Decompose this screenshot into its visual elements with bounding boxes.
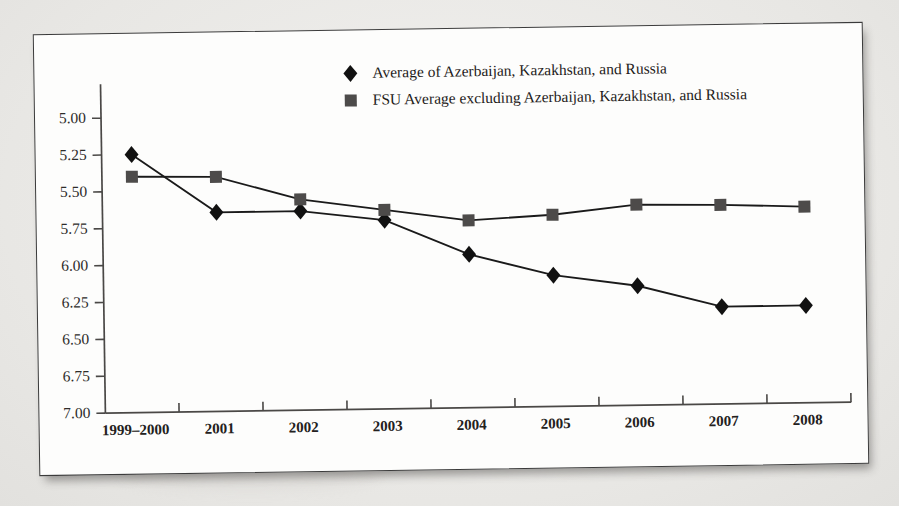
data-point-diamond-marker — [630, 277, 644, 294]
data-point-square-marker — [630, 199, 642, 211]
data-point-square-marker — [210, 171, 222, 183]
y-axis: 5.005.255.505.756.006.256.506.757.00 — [58, 84, 105, 421]
series-group — [124, 136, 813, 324]
data-point-diamond-marker — [124, 146, 138, 163]
x-axis-tick-label: 2004 — [456, 416, 487, 432]
data-point-square-marker — [294, 193, 306, 205]
plot-area: 5.005.255.505.756.006.256.506.757.00 199… — [34, 23, 868, 475]
data-point-diamond-marker — [343, 65, 357, 82]
y-axis-line — [101, 84, 106, 413]
data-point-square-marker — [345, 94, 357, 106]
legend-item: FSU Average excluding Azerbaijan, Kazakh… — [345, 85, 748, 108]
x-axis-tick-label: 2001 — [205, 420, 235, 436]
x-axis-tick-label: 2005 — [540, 415, 570, 431]
data-point-square-marker — [798, 200, 810, 212]
x-axis-tick-label: 2006 — [624, 414, 655, 430]
legend-item: Average of Azerbaijan, Kazakhstan, and R… — [343, 59, 667, 82]
x-axis-tick-label: 2008 — [792, 412, 822, 428]
x-axis-tick-label: 1999–2000 — [102, 421, 170, 438]
line-chart: 5.005.255.505.756.006.256.506.757.00 199… — [34, 23, 868, 475]
y-axis-tick-label: 6.25 — [61, 293, 89, 310]
y-axis-tick-label: 5.25 — [59, 146, 87, 163]
x-axis: 1999–20002001200220032004200520062007200… — [102, 393, 852, 438]
data-point-diamond-marker — [209, 204, 223, 221]
figure-inner: 5.005.255.505.756.006.256.506.757.00 199… — [34, 23, 868, 475]
y-axis-tick-label: 6.75 — [63, 367, 91, 384]
x-axis-tick-label: 2007 — [708, 413, 739, 429]
x-axis-tick-label: 2003 — [373, 418, 403, 434]
data-point-square-marker — [126, 171, 138, 183]
data-point-diamond-marker — [546, 267, 560, 284]
data-point-square-marker — [714, 199, 726, 211]
y-axis-tick-label: 6.50 — [62, 330, 90, 347]
y-axis-tick-label: 6.00 — [61, 256, 89, 273]
x-axis-tick-label: 2002 — [289, 419, 319, 435]
data-point-square-marker — [378, 204, 390, 216]
x-axis-line — [105, 402, 851, 413]
y-axis-tick-label: 5.75 — [60, 220, 88, 237]
data-point-square-marker — [546, 209, 558, 221]
y-axis-tick-label: 5.50 — [60, 183, 88, 200]
data-point-diamond-marker — [462, 246, 476, 263]
y-axis-tick-label: 7.00 — [63, 404, 91, 421]
figure-frame: 5.005.255.505.756.006.256.506.757.00 199… — [33, 22, 869, 476]
y-axis-tick-label: 5.00 — [59, 109, 87, 126]
chart-series — [126, 161, 811, 232]
legend-item-label: Average of Azerbaijan, Kazakhstan, and R… — [372, 59, 667, 80]
data-point-diamond-marker — [715, 298, 729, 315]
data-point-square-marker — [462, 214, 474, 226]
data-point-diamond-marker — [799, 297, 813, 314]
series-line — [132, 145, 806, 316]
chart-series — [124, 136, 813, 324]
chart-legend: Average of Azerbaijan, Kazakhstan, and R… — [343, 58, 747, 108]
legend-item-label: FSU Average excluding Azerbaijan, Kazakh… — [373, 85, 748, 108]
